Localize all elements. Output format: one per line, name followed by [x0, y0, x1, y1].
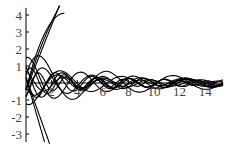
x-tick-label: 10: [148, 84, 161, 99]
y-tick-label: 4: [16, 8, 23, 23]
y-tick-label: 1: [16, 59, 23, 74]
y-tick-label: -2: [11, 110, 22, 125]
y-tick-label: 2: [16, 42, 23, 57]
x-tick-label: 8: [125, 84, 132, 99]
y-tick-label: -3: [11, 127, 22, 142]
chart: -3-2-11234 2468101214: [0, 0, 240, 157]
x-tick-label: 12: [173, 84, 186, 99]
x-tick-label: 4: [74, 84, 81, 99]
y-tick-label: 3: [16, 25, 23, 40]
x-tick-label: 14: [199, 84, 213, 99]
x-tick-label: 2: [48, 84, 55, 99]
y-tick-label: -1: [11, 93, 22, 108]
x-tick-label: 6: [100, 84, 107, 99]
curve-family: [26, 6, 223, 144]
